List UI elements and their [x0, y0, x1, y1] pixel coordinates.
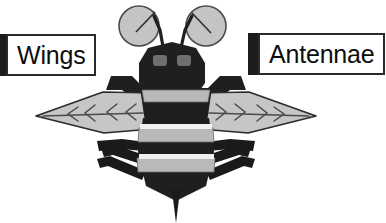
stripe-3	[137, 158, 215, 172]
stinger	[172, 190, 180, 223]
eye-left	[153, 55, 167, 66]
stripe-2	[138, 128, 214, 142]
diagram-canvas: Wings Antennae	[0, 0, 386, 223]
antenna-circle-right-icon	[186, 6, 226, 46]
segment-highlight-1	[140, 124, 212, 129]
eye-right	[177, 55, 191, 66]
segment-highlight-2	[139, 154, 214, 159]
callout-wings[interactable]: Wings	[0, 34, 95, 76]
stripe-1	[142, 90, 210, 102]
callout-wings-box: Wings	[6, 34, 96, 76]
antenna-right-group	[186, 6, 226, 46]
callout-antennae[interactable]: Antennae	[248, 33, 379, 75]
callout-antennae-marker	[248, 33, 258, 75]
callout-antennae-box: Antennae	[258, 33, 385, 75]
callout-wings-label: Wings	[17, 43, 85, 68]
antenna-left-group	[119, 6, 159, 46]
antenna-circle-left-icon	[119, 6, 159, 46]
callout-antennae-label: Antennae	[269, 42, 374, 67]
